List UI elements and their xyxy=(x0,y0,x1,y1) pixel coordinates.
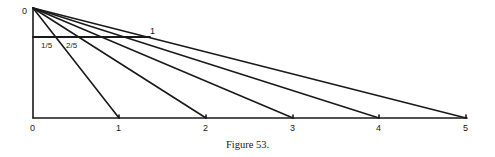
ray-to-3 xyxy=(33,8,293,118)
unit-label: 1 xyxy=(150,27,155,36)
baseline-label-4: 4 xyxy=(376,124,381,133)
ray-to-5 xyxy=(33,8,466,118)
baseline-label-5: 5 xyxy=(463,124,468,133)
fraction-label-1-5: 1/5 xyxy=(41,42,52,50)
construction-figure xyxy=(0,0,495,157)
apex-label: 0 xyxy=(22,7,27,16)
ray-to-2 xyxy=(33,8,206,118)
baseline-label-2: 2 xyxy=(203,124,208,133)
baseline-label-0: 0 xyxy=(30,124,35,133)
baseline-label-1: 1 xyxy=(116,124,121,133)
figure-caption: Figure 53. xyxy=(0,139,495,150)
ray-to-1 xyxy=(33,8,119,118)
baseline-label-3: 3 xyxy=(290,124,295,133)
fraction-label-2-5: 2/5 xyxy=(66,42,77,50)
ray-to-4 xyxy=(33,8,379,118)
